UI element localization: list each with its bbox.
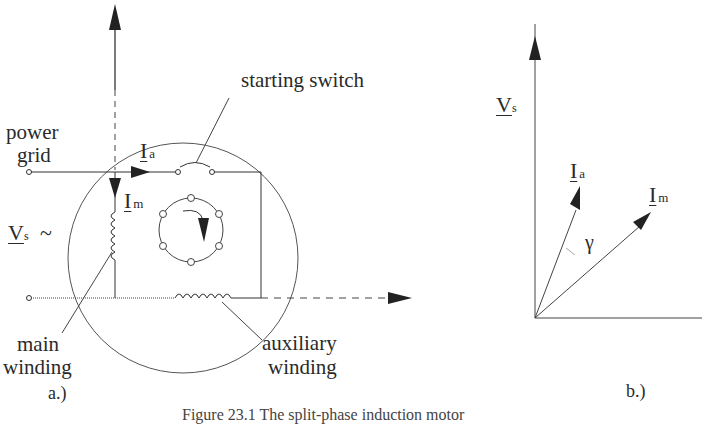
main-axis-arrowhead [109,4,121,30]
terminal-bottom [27,296,32,301]
label-main-winding-line1: main [17,334,59,355]
symbol-im-b: Im [649,184,668,206]
panel-b-label: b.) [626,382,646,400]
panel-b [529,24,702,318]
panel-a [27,4,413,373]
symbol-gamma: γ [585,232,594,252]
rotor-bars [160,195,223,266]
gamma-arc-mark [566,248,575,255]
rotation-arrowhead [198,218,209,242]
switch-contact-left [176,170,181,175]
label-main-winding-line2: winding [3,357,72,378]
panel-a-label: a.) [48,384,66,402]
vs-arrowhead [529,36,541,60]
symbol-vs-b: Vs [496,94,517,116]
rotor-circle [159,198,223,262]
ia-arrowhead [131,166,150,178]
symbol-vs-a: Vs ~ [8,222,52,244]
switch-blade [180,163,210,168]
auxiliary-winding-coil [175,294,231,298]
aux-axis-arrowhead [388,292,412,304]
label-starting-switch: starting switch [241,70,364,91]
switch-contact-right [210,170,215,175]
ia-phasor-arrowhead [570,186,580,210]
im-arrowhead [109,178,121,198]
aux-winding-leader [222,302,262,340]
label-power-grid-line1: power [6,122,58,143]
label-auxiliary-winding-line1: auxiliary [262,333,337,354]
switch-leader [196,98,229,163]
ia-phasor [535,210,576,318]
im-phasor-arrowhead [633,212,651,230]
symbol-im-a: Im [124,190,143,212]
terminal-top [27,170,32,175]
label-power-grid-line2: grid [17,145,51,166]
figure-caption: Figure 23.1 The split-phase induction mo… [182,406,464,424]
symbol-ia-a: Ia [140,140,155,162]
symbol-ia-b: Ia [570,160,585,182]
label-auxiliary-winding-line2: winding [268,357,337,378]
